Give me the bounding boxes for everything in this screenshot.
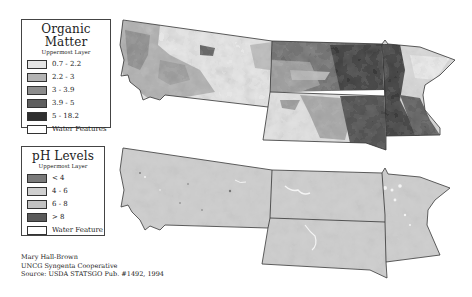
legend-title: Organic Matter (27, 23, 105, 49)
legend-label: > 8 (52, 213, 65, 222)
north-dakota-om (265, 38, 390, 98)
legend-swatch (27, 112, 47, 121)
legend-swatch (27, 213, 47, 222)
south-dakota-om (260, 90, 390, 155)
credit-author: Mary Hall-Brown (21, 253, 164, 262)
legend-item: 0.7 - 2.2 (27, 58, 105, 71)
legend-item: 3 - 3.9 (27, 84, 105, 97)
legend-title: pH Levels (27, 150, 99, 163)
legend-item: 4 - 6 (27, 185, 99, 198)
legend-swatch (27, 60, 47, 69)
legend-label: 5 - 18.2 (52, 112, 79, 121)
legend-swatch (27, 125, 47, 134)
legend-item: 6 - 8 (27, 198, 99, 211)
map-credits: Mary Hall-Brown UNCG Syngenta Cooperativ… (21, 253, 164, 279)
legend-label: Water Feature (52, 226, 103, 235)
credit-organization: UNCG Syngenta Cooperative (21, 262, 164, 271)
legend-subtitle: Uppermost Layer (27, 163, 99, 169)
legend-swatch (27, 200, 47, 209)
credit-source: Source: USDA STATSGO Pub. #1492, 1994 (21, 270, 164, 279)
legend-label: 2.2 - 3 (52, 73, 74, 82)
legend-swatch (27, 174, 47, 183)
legend-swatch (27, 99, 47, 108)
legend-label: < 4 (52, 174, 65, 183)
legend-subtitle: Uppermost Layer (27, 49, 105, 55)
organic-matter-legend: Organic Matter Uppermost Layer 0.7 - 2.2… (21, 19, 111, 128)
legend-item: 5 - 18.2 (27, 110, 105, 123)
legend-label: Water Features (52, 125, 106, 134)
legend-item: Water Features (27, 123, 105, 136)
legend-swatch (27, 187, 47, 196)
legend-item: 3.9 - 5 (27, 97, 105, 110)
legend-item: < 4 (27, 172, 99, 185)
organic-matter-map (115, 15, 460, 155)
legend-swatch (27, 226, 47, 235)
legend-label: 3 - 3.9 (52, 86, 74, 95)
legend-label: 3.9 - 5 (52, 99, 74, 108)
legend-swatch (27, 86, 47, 95)
legend-label: 0.7 - 2.2 (52, 60, 81, 69)
legend-label: 4 - 6 (52, 187, 68, 196)
montana-om (115, 15, 275, 110)
legend-item: 2.2 - 3 (27, 71, 105, 84)
legend-item: > 8 (27, 211, 99, 224)
minnesota-om (380, 38, 460, 140)
ph-legend: pH Levels Uppermost Layer < 4 4 - 6 6 - … (21, 146, 105, 236)
legend-swatch (27, 73, 47, 82)
legend-item: Water Feature (27, 224, 99, 237)
ph-map (120, 148, 450, 278)
legend-label: 6 - 8 (52, 200, 68, 209)
